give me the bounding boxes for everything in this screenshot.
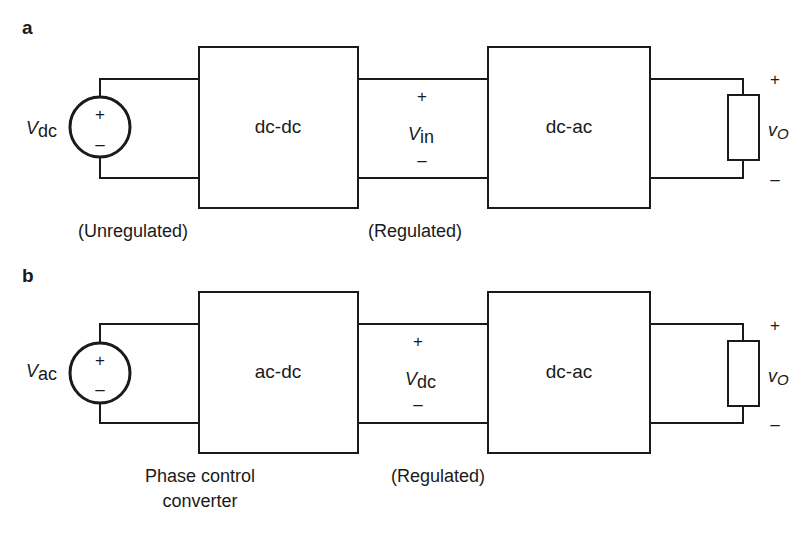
block2-label-a: dc-ac — [546, 116, 592, 137]
caption-phase-control-line1: Phase control — [145, 466, 255, 486]
load-resistor-icon-b — [728, 341, 759, 406]
block1-label-a: dc-dc — [255, 116, 301, 137]
load-minus-a: – — [770, 170, 780, 189]
wire-source-top-a — [100, 79, 199, 97]
wire-source-bottom-b — [100, 403, 199, 423]
mid-minus-b: – — [413, 395, 423, 414]
caption-phase-control-line2: converter — [162, 491, 237, 511]
caption-regulated-b: (Regulated) — [391, 466, 485, 486]
source-minus-a: – — [95, 135, 105, 154]
mid-minus-a: – — [417, 151, 427, 170]
panel-label-b: b — [22, 265, 34, 286]
wire-source-top-b — [100, 324, 199, 343]
block1-label-b: ac-dc — [255, 361, 301, 382]
mid-voltage-label-b: Vdc — [405, 369, 436, 392]
source-label-a: Vdc — [26, 118, 57, 141]
panel-label-a: a — [22, 17, 33, 38]
wire-load-bottom-b — [650, 406, 743, 423]
mid-plus-a: + — [417, 87, 427, 106]
source-plus-a: + — [95, 105, 105, 124]
source-plus-b: + — [95, 351, 105, 370]
mid-voltage-label-a: Vin — [408, 124, 434, 147]
source-minus-b: – — [95, 380, 105, 399]
panel-b: b + – Vac ac-dc + Vdc – dc-ac + vO – Pha… — [22, 265, 789, 511]
converter-diagram: a + – Vdc dc-dc + Vin – dc-ac + vO – (Un… — [0, 0, 811, 540]
wire-load-top-a — [650, 79, 743, 95]
load-resistor-icon — [728, 95, 759, 160]
load-plus-a: + — [770, 70, 780, 89]
caption-unregulated: (Unregulated) — [78, 221, 188, 241]
source-label-b: Vac — [26, 361, 57, 384]
mid-plus-b: + — [413, 332, 423, 351]
caption-regulated-a: (Regulated) — [368, 221, 462, 241]
block2-label-b: dc-ac — [546, 361, 592, 382]
load-voltage-label-a: vO — [768, 120, 789, 142]
panel-a: a + – Vdc dc-dc + Vin – dc-ac + vO – (Un… — [22, 17, 789, 241]
load-plus-b: + — [770, 316, 780, 335]
load-minus-b: – — [770, 415, 780, 434]
load-voltage-label-b: vO — [768, 366, 789, 388]
wire-load-top-b — [650, 324, 743, 341]
wire-source-bottom-a — [100, 157, 199, 178]
wire-load-bottom-a — [650, 160, 743, 178]
